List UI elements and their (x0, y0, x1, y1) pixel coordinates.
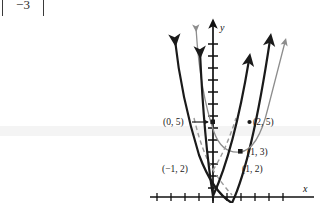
point-label-1-3: (1, 3) (247, 147, 268, 158)
point-marker-1-3 (238, 149, 243, 154)
point-label-1-2: (1, 2) (242, 164, 263, 175)
point-label-2-5: (2, 5) (253, 117, 274, 128)
curve-narrow-black-parabola-right (213, 60, 249, 196)
y-axis-label: y (220, 22, 224, 33)
point-marker-2-5 (247, 120, 251, 124)
point-label-neg1-2: (−1, 2) (162, 164, 188, 175)
point-marker-0-5 (211, 120, 216, 125)
x-axis-label: x (303, 183, 307, 194)
figure-page: −3 (0, 0, 320, 203)
curve-dashed-gray-parabola-right (213, 118, 236, 170)
parabola-graph (0, 0, 320, 203)
curve-narrow-gray-parabola (196, 28, 285, 152)
point-label-0-5: (0, 5) (163, 117, 184, 128)
